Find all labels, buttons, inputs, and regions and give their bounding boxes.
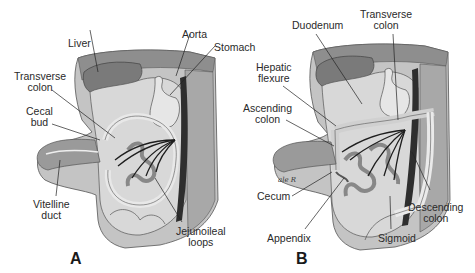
label-appendix: Appendix <box>267 233 311 244</box>
label-duodenum: Duodenum <box>292 20 343 31</box>
label-ascending-colon: Ascending colon <box>243 103 292 125</box>
panel-letter-a: A <box>70 250 82 268</box>
label-liver: Liver <box>68 38 91 49</box>
body-wall-side <box>185 70 215 232</box>
panel-letter-b: B <box>296 250 308 268</box>
label-cecal-bud: Cecal bud <box>26 106 53 128</box>
label-stomach: Stomach <box>214 42 255 53</box>
label-vitelline-duct: Vitelline duct <box>33 199 70 221</box>
label-jejunoileal-loops: Jejunoileal loops <box>176 226 226 248</box>
figure: Liver Aorta Stomach Transverse colon Cec… <box>0 0 475 273</box>
label-sigmoid: Sigmoid <box>378 233 416 244</box>
label-aorta: Aorta <box>182 29 207 40</box>
label-descending-colon: Descending colon <box>408 202 463 224</box>
label-hepatic-flexure: Hepatic flexure <box>256 62 292 84</box>
label-cecum: Cecum <box>257 191 290 202</box>
artist-signature: ale R <box>278 176 296 184</box>
label-transverse-colon-a: Transverse colon <box>14 71 66 93</box>
label-transverse-colon-b: Transverse colon <box>360 9 412 31</box>
